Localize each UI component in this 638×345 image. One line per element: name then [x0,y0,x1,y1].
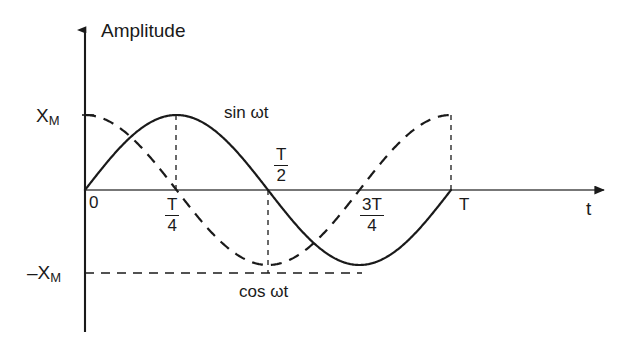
half-period-numerator: T [274,146,288,165]
cosine-curve-label: cos ωt [239,283,288,300]
y-axis-title: Amplitude [101,21,186,40]
quarter-period-numerator: T [165,196,179,215]
sine-curve-label: sin ωt [224,104,268,121]
three-quarter-period-denominator: 4 [360,215,384,235]
tick-label-half-period: T 2 [274,146,288,185]
tick-label-quarter-period: T 4 [165,196,179,235]
quarter-period-denominator: 4 [165,215,179,235]
positive-amplitude-subscript: M [49,113,60,128]
tick-label-three-quarter-period: 3T 4 [360,196,384,235]
sine-cosine-waveform-figure: Amplitude t 0 XM –XM sin ωt cos ωt T 4 T… [0,0,638,345]
negative-amplitude-symbol: –X [27,262,50,283]
half-period-denominator: 2 [274,165,288,185]
positive-amplitude-label: XM [36,106,60,127]
negative-amplitude-label: –XM [27,263,61,284]
positive-amplitude-symbol: X [36,105,49,126]
x-axis-title: t [586,199,591,218]
tick-label-period: T [459,196,469,213]
origin-label: 0 [89,194,98,211]
three-quarter-period-numerator: 3T [360,196,384,215]
waveform-plot [0,0,638,345]
negative-amplitude-subscript: M [50,270,61,285]
